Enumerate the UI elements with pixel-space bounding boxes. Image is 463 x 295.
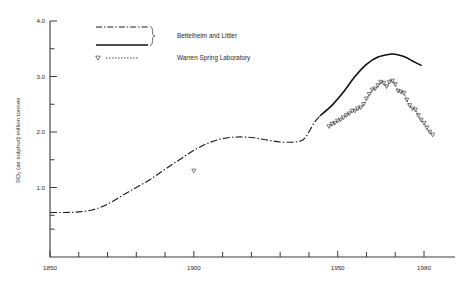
axis-frame [50, 21, 455, 257]
data-point-marker [96, 56, 101, 60]
y-tick-label: 2.0 [36, 128, 45, 135]
data-point-marker [416, 114, 420, 118]
data-point-marker [192, 169, 196, 173]
legend-label-warren-spring: Warren Spring Laboratory [177, 54, 251, 62]
data-series [50, 54, 435, 213]
chart-figure: Bettelheim and LittlerWarren Spring Labo… [0, 0, 463, 295]
data-point-marker [425, 126, 429, 130]
y-axis-title: SO₂ (as sulphur) million tonnes [14, 98, 21, 183]
data-point-marker [431, 133, 435, 137]
y-tick-label: 1.0 [36, 184, 45, 191]
data-point-marker [327, 125, 331, 129]
so2-emissions-line-chart: Bettelheim and LittlerWarren Spring Labo… [0, 0, 463, 295]
data-point-marker [413, 108, 417, 112]
data-point-marker [405, 98, 409, 102]
legend-brace [150, 26, 155, 46]
y-tick-label: 3.0 [36, 73, 45, 80]
series-2 [192, 79, 435, 173]
series-line-solid [320, 54, 421, 115]
x-tick-label: 1900 [187, 264, 201, 271]
data-point-marker [393, 83, 397, 87]
x-tick-label: 1980 [417, 264, 431, 271]
series-0 [50, 115, 320, 212]
data-point-marker [364, 97, 368, 101]
legend-label-bettelheim: Bettelheim and Littler [177, 32, 238, 39]
chart-legend: Bettelheim and LittlerWarren Spring Labo… [96, 26, 251, 62]
axes [50, 21, 455, 257]
data-point-marker [422, 121, 426, 125]
x-tick-label: 1950 [331, 264, 345, 271]
y-tick-label: 4.0 [36, 17, 45, 24]
series-line-dash-dot [50, 115, 320, 212]
x-tick-label: 1850 [43, 264, 57, 271]
series-1 [320, 54, 421, 115]
